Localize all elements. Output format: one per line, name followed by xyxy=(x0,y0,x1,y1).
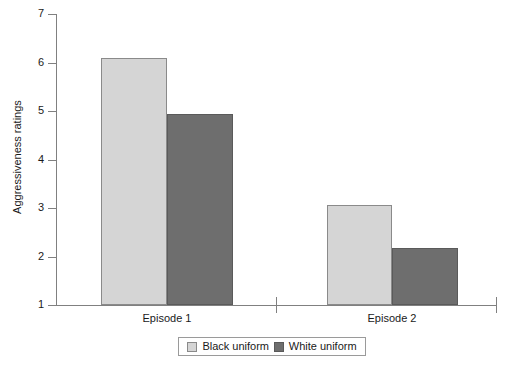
legend: Black uniform White uniform xyxy=(178,337,366,356)
y-tick-mark xyxy=(48,63,56,64)
y-tick-mark xyxy=(48,111,56,112)
y-axis-title: Aggressiveness ratings xyxy=(11,77,23,237)
legend-swatch-icon xyxy=(274,342,284,352)
y-tick-mark xyxy=(48,14,56,15)
x-axis-end-tick xyxy=(496,297,497,313)
y-tick-label: 2 xyxy=(16,251,44,262)
y-axis-line xyxy=(56,14,57,305)
bar-episode1-white-uniform xyxy=(167,114,233,305)
y-tick-mark xyxy=(48,305,56,306)
x-axis-mid-tick xyxy=(276,297,277,313)
legend-entry-black-uniform: Black uniform xyxy=(187,341,269,352)
legend-entry-white-uniform: White uniform xyxy=(274,341,357,352)
y-tick-7: 7 xyxy=(0,14,56,15)
y-tick-5: 5 xyxy=(0,111,56,112)
bar-episode2-white-uniform xyxy=(392,248,458,305)
y-tick-3: 3 xyxy=(0,208,56,209)
bar-episode1-black-uniform xyxy=(101,58,167,305)
y-tick-mark xyxy=(48,257,56,258)
legend-swatch-icon xyxy=(187,342,197,352)
y-tick-mark xyxy=(48,160,56,161)
bar-chart: 7 6 5 4 3 2 1 Aggressiveness ratings Epi… xyxy=(0,0,514,370)
legend-label: Black uniform xyxy=(202,341,269,352)
y-tick-2: 2 xyxy=(0,257,56,258)
y-tick-6: 6 xyxy=(0,63,56,64)
y-tick-label: 6 xyxy=(16,57,44,68)
y-tick-4: 4 xyxy=(0,160,56,161)
legend-label: White uniform xyxy=(289,341,357,352)
x-label-episode-1: Episode 1 xyxy=(117,312,217,324)
y-tick-label: 7 xyxy=(16,8,44,19)
y-tick-label: 1 xyxy=(16,299,44,310)
y-tick-mark xyxy=(48,208,56,209)
bar-episode2-black-uniform xyxy=(327,205,392,305)
x-label-episode-2: Episode 2 xyxy=(342,312,442,324)
y-tick-1: 1 xyxy=(0,305,56,306)
